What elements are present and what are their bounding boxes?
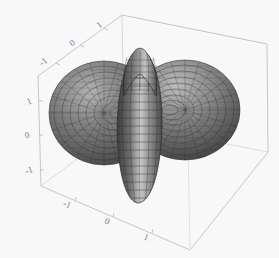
tick-x--1 bbox=[75, 197, 76, 201]
plot-canvas: -1 0 1 1 0 -1 -1 0 1 bbox=[0, 0, 279, 258]
tick-x-0 bbox=[113, 213, 114, 217]
tick-label-y-0: 0 bbox=[67, 37, 77, 48]
surface-mesh bbox=[49, 48, 240, 203]
tick-x-1 bbox=[152, 229, 153, 233]
frame-edge-bottom-front-left bbox=[41, 186, 190, 250]
frame-edge-top-right bbox=[122, 15, 267, 44]
frame-edge-left-vertical bbox=[38, 76, 41, 186]
tick-label-y-1: 1 bbox=[94, 19, 104, 30]
tick-label-y-neg1: -1 bbox=[37, 55, 49, 67]
tick-y-1 bbox=[104, 28, 108, 30]
plot-3d-surface[interactable]: -1 0 1 1 0 -1 -1 0 1 bbox=[0, 0, 279, 258]
tick-label-x-neg1: -1 bbox=[62, 198, 73, 210]
tick-label-x-0: 0 bbox=[103, 216, 112, 227]
tick-label-z-1: 1 bbox=[25, 96, 33, 107]
tick-label-z-0: 0 bbox=[23, 130, 31, 141]
tick-y--1 bbox=[56, 63, 60, 65]
tick-y-0 bbox=[80, 45, 84, 47]
frame-edge-right-vertical bbox=[267, 44, 268, 152]
tick-label-z-neg1: -1 bbox=[24, 164, 34, 176]
tick-label-x-1: 1 bbox=[142, 232, 150, 243]
frame-edge-bottom-front-right bbox=[190, 152, 268, 250]
